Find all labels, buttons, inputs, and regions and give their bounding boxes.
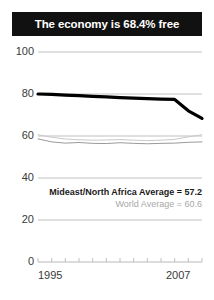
- average-annotations: Mideast/North Africa Average = 57.2 Worl…: [36, 186, 202, 210]
- x-axis-end-label: 2007: [166, 270, 190, 281]
- y-axis-tick-label: 100: [6, 46, 34, 57]
- y-axis-tick-label: 60: [6, 130, 34, 141]
- y-axis-tick-label: 80: [6, 88, 34, 99]
- x-axis-ticks-group: [38, 258, 202, 262]
- economic-freedom-chart: The economy is 68.4% free 100806040200 1…: [0, 0, 214, 300]
- y-axis-tick-label: 40: [6, 172, 34, 183]
- mideast-average-label: Mideast/North Africa Average = 57.2: [36, 186, 202, 198]
- y-axis-tick-label: 0: [6, 256, 34, 267]
- world-average-label: World Average = 60.6: [36, 198, 202, 210]
- gridlines-group: [38, 52, 202, 262]
- data-line: [38, 94, 202, 118]
- y-axis-tick-label: 20: [6, 214, 34, 225]
- x-axis-start-label: 1995: [38, 270, 62, 281]
- plot-area: 100806040200 1995 2007: [0, 0, 214, 300]
